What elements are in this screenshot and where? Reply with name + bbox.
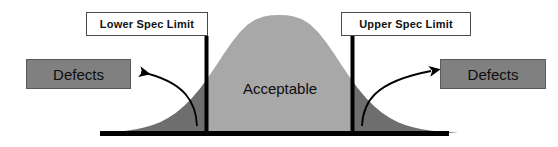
upper-spec-limit-label-text: Upper Spec Limit	[359, 18, 453, 30]
acceptable-label-text: Acceptable	[243, 80, 317, 97]
acceptable-region-label: Acceptable	[225, 78, 335, 98]
upper-spec-limit-label-box: Upper Spec Limit	[341, 12, 471, 36]
defects-label-text-right: Defects	[468, 66, 519, 83]
defects-label-text-left: Defects	[53, 66, 104, 83]
defects-label-box-right: Defects	[440, 59, 546, 89]
lower-spec-limit-label-text: Lower Spec Limit	[100, 18, 194, 30]
process-capability-diagram: Lower Spec Limit Upper Spec Limit Defect…	[0, 0, 558, 147]
defects-label-box-left: Defects	[26, 59, 131, 89]
lower-spec-limit-label-box: Lower Spec Limit	[86, 12, 208, 36]
